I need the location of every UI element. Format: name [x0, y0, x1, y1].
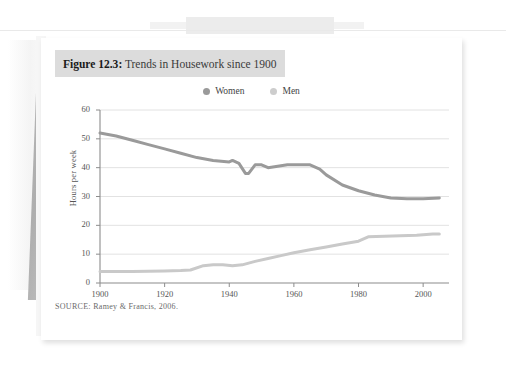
x-tick-label-1980: 1980 — [339, 289, 379, 299]
x-tick-label-1900: 1900 — [80, 289, 120, 299]
y-tick-label-30: 30 — [68, 191, 90, 201]
y-tick-label-20: 20 — [68, 219, 90, 229]
x-tick-label-1960: 1960 — [274, 289, 314, 299]
x-tick-label-1920: 1920 — [145, 289, 185, 299]
page-header-text-right — [334, 22, 364, 29]
x-tick-label-2000: 2000 — [403, 289, 443, 299]
figure-source: SOURCE: Ramey & Francis, 2006. — [55, 302, 178, 311]
y-tick-label-40: 40 — [68, 162, 90, 172]
page-header-rule — [0, 30, 506, 31]
page-header-bar — [186, 17, 334, 34]
series-line-men — [100, 234, 439, 271]
y-tick-label-60: 60 — [68, 104, 90, 114]
chart-plot-area: Hours per week 0102030405060 19001920194… — [41, 38, 462, 340]
x-tick-label-1940: 1940 — [209, 289, 249, 299]
y-tick-label-10: 10 — [68, 248, 90, 258]
y-tick-label-0: 0 — [68, 277, 90, 287]
series-line-women — [100, 133, 439, 199]
figure-card: Figure 12.3: Trends in Housework since 1… — [41, 38, 462, 340]
page-header-text-left — [150, 22, 186, 29]
y-tick-label-50: 50 — [68, 133, 90, 143]
